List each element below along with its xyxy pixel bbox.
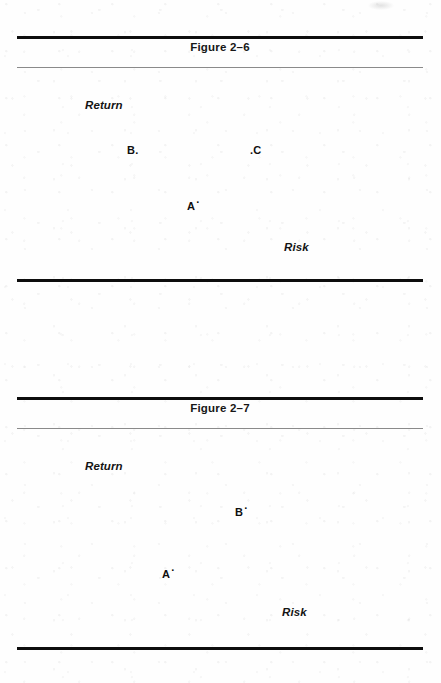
figure-2-6-caption-rule — [17, 67, 423, 68]
figure-2-6-point-b-marker-dot: . — [135, 144, 138, 156]
figure-2-6-point-a-letter: A — [187, 200, 195, 212]
figure-2-7-point-b: B· — [235, 506, 248, 518]
figure-2-7-point-b-letter: B — [235, 506, 243, 518]
figure-2-6-point-a: A· — [187, 200, 200, 212]
scan-smudge-mark — [368, 1, 394, 10]
figure-2-7-title: Figure 2–7 — [17, 402, 423, 414]
figure-2-6-bottom-rule — [17, 279, 423, 282]
figure-2-7-y-axis-label: Return — [85, 460, 123, 472]
figure-2-6-point-b: B. — [127, 144, 138, 156]
figure-2-7-caption-rule — [17, 428, 423, 429]
scan-noise-texture — [0, 0, 441, 683]
figure-2-7-top-rule — [17, 397, 423, 400]
scanned-page: Figure 2–6 Return B. .C A· Risk Figure 2… — [0, 0, 441, 683]
figure-2-6-y-axis-label: Return — [85, 99, 123, 111]
figure-2-6-point-c-letter: C — [253, 144, 261, 156]
figure-2-7-bottom-rule — [17, 647, 423, 650]
figure-2-7-point-a-letter: A — [162, 568, 170, 580]
figure-2-6-point-c: .C — [250, 144, 261, 156]
figure-2-6-top-rule — [17, 36, 423, 39]
figure-2-6-x-axis-label: Risk — [284, 241, 309, 253]
figure-2-6-point-b-letter: B — [127, 144, 135, 156]
figure-2-7-point-a: A· — [162, 568, 175, 580]
figure-2-7-x-axis-label: Risk — [282, 606, 307, 618]
figure-2-6-title: Figure 2–6 — [17, 41, 423, 53]
